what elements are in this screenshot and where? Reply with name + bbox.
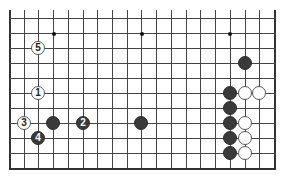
black-stone-move-2: 2 [76,116,90,130]
black-stone [223,101,237,115]
go-board-diagram: 51324 [0,0,283,180]
white-stone [238,86,252,100]
white-stone [238,146,252,160]
black-stone [238,56,252,70]
black-stone [223,146,237,160]
white-stone [238,116,252,130]
white-stone [238,131,252,145]
white-stone-move-1: 1 [31,86,45,100]
grid-line-horizontal [9,168,276,170]
grid-line-horizontal [9,63,276,64]
black-stone-move-4: 4 [31,131,45,145]
white-stone-move-5: 5 [31,41,45,55]
star-point [140,32,144,36]
black-stone [223,86,237,100]
black-stone [134,116,148,130]
white-stone-move-3: 3 [17,116,31,130]
grid-line-horizontal [9,78,276,79]
star-point [52,32,56,36]
star-point [228,32,232,36]
grid-line-horizontal [9,48,276,49]
grid-line-horizontal [9,18,276,19]
white-stone [252,86,266,100]
black-stone [223,131,237,145]
black-stone [223,116,237,130]
black-stone [46,116,60,130]
